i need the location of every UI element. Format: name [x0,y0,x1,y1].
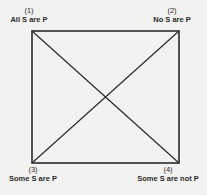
corner-label-3: (3) Some S are P [2,165,64,183]
corner-number-2: (2) [146,6,198,15]
corner-number-3: (3) [2,165,64,174]
corner-text-4: Some S are not P [137,174,199,183]
corner-text-1: All S are P [10,15,47,24]
corner-text-3: Some S are P [9,174,57,183]
corner-label-2: (2) No S are P [146,6,198,24]
corner-label-4: (4) Some S are not P [128,165,207,183]
square-of-opposition-diagram: (1) All S are P (2) No S are P (3) Some … [0,0,207,195]
corner-text-2: No S are P [153,15,191,24]
corner-label-1: (1) All S are P [6,6,52,24]
corner-number-1: (1) [6,6,52,15]
corner-number-4: (4) [128,165,207,174]
